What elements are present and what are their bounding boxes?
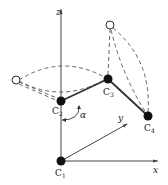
diagram-canvas: z x y α C1 C2 C3 C4 [0, 0, 168, 185]
z-axis-label: z [55, 7, 61, 17]
bond-c3-c4 [108, 79, 148, 116]
bond-c2-c3 [61, 79, 108, 101]
bonds [61, 79, 148, 116]
angle-arrow-icon-2 [77, 105, 81, 109]
dashed-line-left-c2b [19, 84, 58, 101]
node-c1 [57, 157, 66, 166]
y-axis [61, 124, 127, 161]
dashed-line-top-c4 [111, 30, 146, 113]
angle-arrow-icon [62, 118, 66, 122]
axes [60, 8, 160, 163]
angle-alpha-arc [62, 106, 79, 120]
y-axis-label: y [117, 113, 124, 123]
node-c4 [144, 112, 153, 121]
node-c3 [104, 75, 113, 84]
x-axis-arrow-icon [153, 160, 159, 163]
dashed-line-left-c2 [19, 82, 59, 99]
y-axis-arrow-icon [123, 124, 129, 128]
dashed-paths [19, 28, 148, 113]
open-node-left [12, 76, 20, 84]
node-c2 [57, 97, 66, 106]
angle-alpha-label: α [80, 110, 86, 120]
open-node-top [106, 21, 114, 29]
dashed-arc-top-left [19, 66, 106, 80]
x-axis-label: x [153, 165, 158, 175]
node-c1-label: C1 [55, 168, 66, 179]
dashed-line-top-c3 [108, 29, 110, 76]
joint-diagram: z x y α C1 C2 C3 C4 [0, 0, 168, 185]
node-c3-label: C3 [103, 87, 114, 98]
node-c4-label: C4 [144, 123, 155, 134]
